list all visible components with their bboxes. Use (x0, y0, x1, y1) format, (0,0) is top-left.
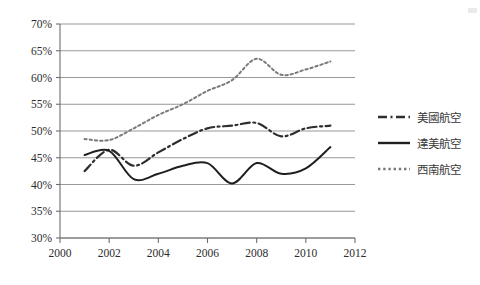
x-axis-tick-label: 2010 (294, 247, 317, 259)
x-axis-tick-label: 2004 (147, 247, 170, 259)
line-chart: 30%35%40%45%50%55%60%65%70% 200020022004… (0, 0, 480, 285)
series-line-2 (85, 147, 331, 183)
y-axis-tick-label: 60% (31, 72, 53, 84)
y-axis-tick-labels: 30%35%40%45%50%55%60%65%70% (31, 18, 53, 244)
x-axis-tick-label: 2012 (344, 247, 367, 259)
chart-figure: 30%35%40%45%50%55%60%65%70% 200020022004… (0, 0, 480, 285)
scan-artifact (468, 8, 477, 13)
y-axis-ticks (56, 24, 60, 238)
legend-label-3: 西南航空 (417, 163, 461, 177)
x-axis-tick-labels: 2000200220042006200820102012 (49, 247, 367, 259)
legend-label-1: 美國航空 (417, 111, 461, 125)
y-axis-tick-label: 65% (31, 45, 53, 57)
gridlines (60, 24, 355, 238)
x-axis-tick-label: 2008 (245, 247, 268, 259)
chart-legend: 美國航空達美航空西南航空 (378, 111, 461, 177)
x-axis-tick-label: 2006 (196, 247, 219, 259)
y-axis-tick-label: 40% (31, 179, 53, 191)
x-axis-tick-label: 2002 (98, 247, 121, 259)
x-axis-ticks (60, 238, 355, 243)
x-axis-tick-label: 2000 (49, 247, 72, 259)
y-axis-tick-label: 55% (31, 98, 53, 110)
y-axis-tick-label: 50% (31, 125, 53, 137)
y-axis-tick-label: 70% (31, 18, 53, 30)
y-axis-tick-label: 35% (31, 205, 53, 217)
y-axis-tick-label: 30% (31, 232, 53, 244)
legend-label-2: 達美航空 (417, 137, 461, 151)
y-axis-tick-label: 45% (31, 152, 53, 164)
